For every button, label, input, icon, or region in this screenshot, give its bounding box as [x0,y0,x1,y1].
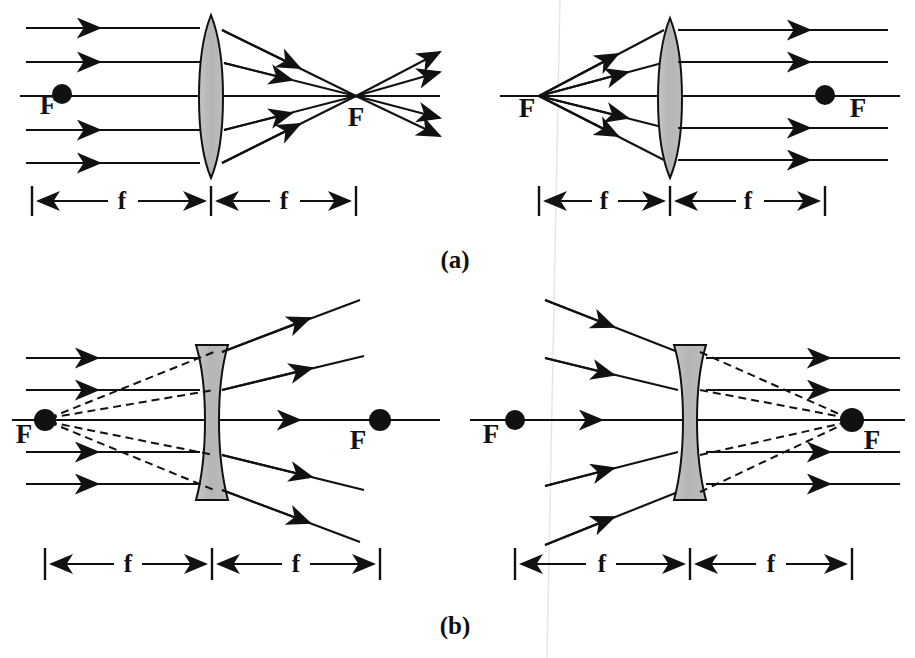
focal-point-marker-right [815,85,835,105]
f-label-b-right-1: f [598,550,607,577]
f-label-b-left-2: f [292,550,301,577]
focal-label-a-left-near: F [40,90,57,120]
figure-canvas: F F F F F F F F f f f f f f f f (a) (b) [0,0,915,658]
f-label-a-right-1: f [600,187,609,214]
focal-point-marker-right [369,409,391,431]
f-label-b-left-1: f [124,550,133,577]
f-label-a-left-2: f [280,187,289,214]
part-label-a: (a) [440,246,469,274]
virtual-focal-point-marker-right [840,408,864,432]
focal-label-b-left-near: F [16,419,33,449]
focal-point-marker-left [505,410,525,430]
focal-label-b-right-far: F [864,425,881,455]
focal-label-a-right-far: F [850,93,867,123]
virtual-focal-point-marker-left [34,409,56,431]
f-label-a-left-1: f [118,187,127,214]
focal-label-a-right-near: F [519,93,536,123]
focal-label-b-right-near: F [483,419,500,449]
f-label-b-right-2: f [767,550,776,577]
focal-label-a-left-far: F [348,102,365,132]
f-label-a-right-2: f [744,187,753,214]
focal-label-b-left-far: F [350,425,367,455]
figure-background [0,0,915,658]
lens-ray-diagram-figure: F F F F F F F F f f f f f f f f (a) (b) [0,0,915,658]
part-label-b: (b) [440,612,471,640]
